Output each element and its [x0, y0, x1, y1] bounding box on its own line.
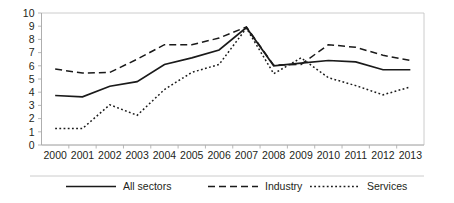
y-tick-label: 10 [23, 7, 35, 19]
x-tick-label: 2005 [180, 149, 204, 161]
x-tick-label: 2007 [235, 149, 259, 161]
x-tick-label: 2011 [344, 149, 367, 161]
x-tick-label: 2009 [289, 149, 313, 161]
y-tick-label: 0 [29, 139, 35, 151]
y-tick-label: 8 [29, 33, 35, 45]
x-tick-label: 2001 [71, 149, 95, 161]
x-tick-label: 2004 [153, 149, 177, 161]
y-tick-label: 3 [29, 99, 35, 111]
x-tick-label: 2010 [317, 149, 341, 161]
legend-label-industry: Industry [265, 180, 303, 192]
x-tick-label: 2008 [262, 149, 286, 161]
x-tick-label: 2002 [98, 149, 122, 161]
y-tick-label: 6 [29, 60, 35, 72]
x-tick-label: 2003 [125, 149, 149, 161]
x-tick-label: 2012 [371, 149, 395, 161]
legend-label-services: Services [367, 180, 407, 192]
y-tick-label: 5 [29, 73, 35, 85]
x-tick-label: 2000 [43, 149, 67, 161]
y-tick-label: 9 [29, 20, 35, 32]
y-tick-label: 1 [29, 126, 35, 138]
y-tick-label: 7 [29, 46, 35, 58]
x-tick-label: 2006 [207, 149, 231, 161]
legend-label-all-sectors: All sectors [123, 180, 171, 192]
line-chart: 109876543210 200020012002200320042005200… [0, 0, 454, 203]
chart-background [0, 0, 454, 203]
x-tick-label: 2013 [399, 149, 423, 161]
chart-canvas: 109876543210 200020012002200320042005200… [0, 0, 454, 203]
y-tick-label: 2 [29, 112, 35, 124]
y-tick-label: 4 [29, 86, 35, 98]
